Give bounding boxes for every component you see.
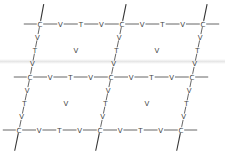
- node-v: V: [106, 87, 111, 95]
- stub-bottom: [15, 133, 19, 151]
- node-v: V: [187, 87, 192, 95]
- node-t: T: [159, 21, 165, 29]
- node-t: T: [113, 47, 119, 55]
- stub-top: [123, 4, 126, 21]
- node-t: T: [148, 74, 154, 82]
- node-v: V: [19, 113, 24, 121]
- node-v: V: [192, 60, 197, 68]
- node-c: C: [109, 74, 114, 82]
- cell-center-v: V: [64, 100, 69, 108]
- node-t: T: [137, 127, 143, 135]
- node-c: C: [120, 21, 125, 29]
- node-v: V: [198, 34, 203, 42]
- node-t: T: [183, 100, 189, 108]
- stub-bottom: [177, 133, 181, 151]
- lattice-diagram: VTVVTVVTVVTVVTVVTVVTVVTVVTVVTVVTVVTVCCCC…: [0, 0, 225, 160]
- node-c: C: [98, 127, 103, 135]
- node-t: T: [102, 100, 108, 108]
- cell-center-v: V: [145, 100, 150, 108]
- node-t: T: [21, 100, 27, 108]
- node-t: T: [32, 47, 38, 55]
- node-v: V: [111, 60, 116, 68]
- stub-top: [41, 4, 44, 21]
- node-v: V: [140, 21, 145, 29]
- stub-bottom: [96, 133, 100, 151]
- stub-top: [204, 4, 207, 21]
- node-c: C: [201, 21, 206, 29]
- node-v: V: [118, 127, 123, 135]
- node-c: C: [190, 74, 195, 82]
- node-v: V: [117, 34, 122, 42]
- node-v: V: [35, 34, 40, 42]
- node-v: V: [88, 74, 93, 82]
- lattice-nodes: VTVVTVVTVVTVVTVVTVVTVVTVVTVVTVVTVVTVCCCC…: [17, 21, 206, 135]
- node-v: V: [77, 127, 82, 135]
- node-v: V: [37, 127, 42, 135]
- node-c: C: [179, 127, 184, 135]
- node-v: V: [180, 21, 185, 29]
- node-v: V: [158, 127, 163, 135]
- node-c: C: [17, 127, 22, 135]
- cell-center-v: V: [74, 47, 79, 55]
- node-v: V: [25, 87, 30, 95]
- node-t: T: [78, 21, 84, 29]
- cell-center-v: V: [155, 47, 160, 55]
- node-v: V: [169, 74, 174, 82]
- node-c: C: [28, 74, 33, 82]
- node-v: V: [99, 21, 104, 29]
- node-t: T: [56, 127, 62, 135]
- node-v: V: [30, 60, 35, 68]
- node-v: V: [58, 21, 63, 29]
- node-t: T: [194, 47, 200, 55]
- node-v: V: [100, 113, 105, 121]
- node-v: V: [129, 74, 134, 82]
- node-t: T: [67, 74, 73, 82]
- node-v: V: [181, 113, 186, 121]
- node-v: V: [48, 74, 53, 82]
- node-c: C: [38, 21, 43, 29]
